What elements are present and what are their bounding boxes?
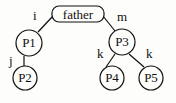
edge-label-j: j	[8, 53, 13, 68]
tree-diagram: father P1 P2 P3 P4 P5 i m j k k	[0, 0, 176, 103]
node-p3-label: P3	[115, 34, 129, 49]
node-father-label: father	[63, 7, 94, 22]
edge-p3-p4	[106, 54, 115, 67]
node-p5-label: P5	[144, 70, 158, 85]
node-p1-label: P1	[22, 35, 36, 50]
node-p4-label: P4	[105, 70, 119, 85]
edge-label-m: m	[117, 9, 127, 24]
edge-label-k-right: k	[146, 46, 153, 61]
node-p2-label: P2	[18, 70, 32, 85]
edge-p3-p5	[129, 54, 144, 67]
edge-father-p3	[103, 16, 115, 31]
edge-label-k-left: k	[97, 46, 104, 61]
edge-label-i: i	[33, 8, 37, 23]
edge-father-p1	[38, 16, 53, 32]
